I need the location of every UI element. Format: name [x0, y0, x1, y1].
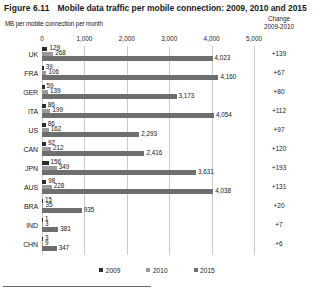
bar-chn-2010: [42, 242, 43, 246]
chart-row: CAN922122,416+120: [0, 141, 314, 160]
x-tick-label: 4,000: [204, 35, 220, 42]
x-tick-label: 1,000: [76, 35, 92, 42]
bar-value-can-2010: 212: [53, 145, 64, 151]
chart-row: GER591393,173+80: [0, 84, 314, 103]
bar-rows: UK1292684,023+139FRA391064,160+67GER5913…: [0, 46, 314, 255]
bar-value-can-2015: 2,416: [146, 150, 162, 156]
bar-value-fra-2015: 4,160: [220, 74, 236, 80]
category-label-chn: CHN: [0, 241, 38, 248]
bar-ger-2010: [42, 90, 48, 94]
chart-row: IND13381+7: [0, 217, 314, 236]
figure-container: Figure 6.11 Mobile data traffic per mobi…: [0, 0, 314, 297]
bar-ind-2009: [42, 218, 43, 222]
legend-item-2009[interactable]: 2009: [99, 267, 120, 274]
bar-uk-2009: [42, 47, 47, 51]
change-value-chn: +6: [247, 240, 311, 247]
bar-bra-2015: [42, 208, 82, 212]
legend-label: 2010: [153, 267, 168, 274]
bar-value-bra-2010: 35: [45, 202, 52, 208]
bar-ger-2009: [42, 85, 45, 89]
category-label-ger: GER: [0, 89, 38, 96]
axis-unit-label: MB per mobile connection per month: [5, 20, 103, 27]
bar-bra-2010: [42, 204, 43, 208]
bar-ita-2015: [42, 113, 214, 117]
bar-aus-2010: [42, 185, 52, 189]
bar-bra-2009: [42, 199, 43, 203]
chart-row: ITA861994,054+112: [0, 103, 314, 122]
bar-can-2015: [42, 151, 144, 155]
bar-us-2009: [42, 123, 46, 127]
figure-title: Mobile data traffic per mobile connectio…: [58, 3, 307, 13]
category-label-jpn: JPN: [0, 165, 38, 172]
bar-ger-2015: [42, 94, 177, 98]
bar-value-ind-2015: 381: [60, 226, 71, 232]
figure-number: Figure 6.11: [4, 3, 50, 13]
bar-uk-2015: [42, 56, 213, 60]
bar-jpn-2009: [42, 161, 49, 165]
x-axis-tick-labels: 01,0002,0003,0004,0005,000: [0, 35, 314, 45]
category-label-can: CAN: [0, 146, 38, 153]
chart-row: AUS982284,038+131: [0, 179, 314, 198]
bar-value-ger-2010: 139: [50, 88, 61, 94]
x-tick-label: 2,000: [119, 35, 135, 42]
bar-value-chn-2010: 9: [45, 240, 49, 246]
footer-divider: [3, 286, 151, 287]
bar-ita-2009: [42, 104, 46, 108]
bar-ind-2010: [42, 223, 43, 227]
bar-value-bra-2015: 935: [84, 207, 95, 213]
bar-value-ind-2010: 3: [45, 221, 49, 227]
change-value-fra: +67: [247, 69, 311, 76]
bar-fra-2010: [42, 71, 46, 75]
chart-row: FRA391064,160+67: [0, 65, 314, 84]
bar-value-uk-2010: 268: [55, 50, 66, 56]
category-label-bra: BRA: [0, 203, 38, 210]
bar-chn-2015: [42, 246, 57, 250]
category-label-ita: ITA: [0, 108, 38, 115]
change-value-ger: +80: [247, 88, 311, 95]
chart-row: UK1292684,023+139: [0, 46, 314, 65]
bar-value-ger-2015: 3,173: [179, 93, 195, 99]
bar-value-aus-2010: 228: [54, 183, 65, 189]
bar-value-jpn-2015: 3,631: [198, 169, 214, 175]
bar-value-uk-2015: 4,023: [215, 55, 231, 61]
chart-row: CHN39347+6: [0, 236, 314, 255]
legend-swatch-icon-2015: [194, 268, 198, 272]
change-column-header: Change 2009-2010: [247, 15, 311, 31]
bar-value-chn-2015: 347: [59, 245, 70, 251]
bar-value-ita-2015: 4,054: [216, 112, 232, 118]
bar-value-jpn-2010: 349: [59, 164, 70, 170]
change-value-uk: +139: [247, 50, 311, 57]
bar-can-2010: [42, 147, 51, 151]
change-value-us: +97: [247, 126, 311, 133]
figure-title-row: Figure 6.11 Mobile data traffic per mobi…: [4, 3, 312, 13]
category-label-fra: FRA: [0, 70, 38, 77]
category-label-aus: AUS: [0, 184, 38, 191]
bar-value-us-2010: 162: [51, 126, 62, 132]
legend-label: 2015: [200, 267, 215, 274]
legend-swatch-icon-2009: [99, 268, 103, 272]
x-tick-label: 5,000: [246, 35, 262, 42]
change-value-jpn: +193: [247, 164, 311, 171]
bar-value-fra-2010: 106: [48, 69, 59, 75]
bar-us-2015: [42, 132, 139, 136]
chart-legend: 200920102015: [0, 264, 314, 276]
category-label-us: US: [0, 127, 38, 134]
change-value-ita: +112: [247, 107, 311, 114]
bar-aus-2009: [42, 180, 46, 184]
change-value-can: +120: [247, 145, 311, 152]
chart-row: US861622,293+97: [0, 122, 314, 141]
legend-item-2015[interactable]: 2015: [194, 267, 215, 274]
bar-fra-2009: [42, 66, 44, 70]
chart-row: JPN1563493,631+193: [0, 160, 314, 179]
legend-label: 2009: [106, 267, 121, 274]
change-header-line2: 2009-2010: [247, 23, 311, 31]
bar-aus-2015: [42, 189, 213, 193]
bar-value-us-2015: 2,293: [141, 131, 157, 137]
legend-item-2010[interactable]: 2010: [146, 267, 167, 274]
bar-jpn-2015: [42, 170, 196, 174]
bar-us-2010: [42, 128, 49, 132]
change-value-ind: +7: [247, 221, 311, 228]
bar-ita-2010: [42, 109, 50, 113]
x-tick-label: 3,000: [161, 35, 177, 42]
bar-can-2009: [42, 142, 46, 146]
